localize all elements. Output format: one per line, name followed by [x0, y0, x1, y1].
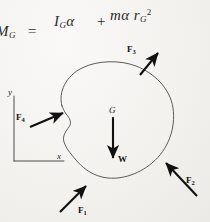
equation-term2-subscript: G: [140, 14, 147, 24]
moment-equation-lhs: MG: [0, 24, 16, 40]
equation-term2-exponent: 2: [147, 7, 152, 17]
moment-equation-term1: IGα: [54, 14, 75, 30]
moment-equation-term2: mα rG2: [110, 8, 152, 24]
equation-equals-sign: =: [27, 24, 38, 39]
center-of-gravity-label: G: [109, 106, 116, 115]
equation-plus-sign: +: [96, 14, 107, 29]
center-of-gravity-point: [112, 117, 114, 119]
equation-term1-factor: α: [66, 13, 74, 29]
force-vector-f3: [140, 53, 158, 75]
force-label-f2: F2: [186, 176, 195, 187]
force-label-f1: F1: [78, 206, 87, 217]
weight-label: W: [118, 155, 127, 164]
equation-lhs-subscript: G: [9, 30, 16, 40]
y-axis-label: y: [8, 88, 12, 97]
force-label-f4: F4: [16, 113, 25, 124]
x-axis-label: x: [57, 152, 61, 161]
force-label-f3: F3: [127, 45, 136, 56]
force-vector-f4: [30, 113, 63, 127]
